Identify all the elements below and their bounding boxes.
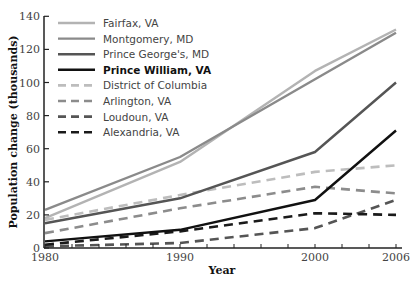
series-line-prince-george-s-md (45, 83, 396, 224)
y-tick-label: 100 (19, 77, 40, 90)
x-ticks: 1980199020002006 (31, 244, 410, 264)
y-tick-label: 20 (26, 209, 40, 222)
legend-label: Prince William, VA (103, 64, 212, 76)
legend-label: Loudoun, VA (103, 111, 169, 123)
x-tick-label: 2006 (382, 251, 410, 264)
x-tick-label: 1990 (166, 251, 194, 264)
plot-lines (45, 30, 396, 247)
y-tick-label: 80 (26, 110, 40, 123)
legend-label: Prince George's, MD (103, 48, 209, 60)
population-change-chart: 020406080100120140 1980199020002006 Popu… (0, 0, 414, 287)
x-axis-title: Year (208, 264, 236, 277)
legend-label: Montgomery, MD (103, 33, 193, 45)
legend-label: Fairfax, VA (103, 17, 159, 29)
legend-label: Arlington, VA (103, 95, 172, 107)
legend-label: Alexandria, VA (103, 126, 180, 138)
y-axis-title: Population change (thousands) (7, 35, 20, 228)
x-tick-label: 1980 (31, 251, 59, 264)
series-line-district-of-columbia (45, 165, 396, 220)
series-line-prince-william-va (45, 131, 396, 242)
legend: Fairfax, VAMontgomery, MDPrince George's… (58, 17, 212, 138)
y-tick-label: 60 (26, 143, 40, 156)
y-tick-label: 120 (19, 43, 40, 56)
legend-label: District of Columbia (103, 79, 207, 91)
y-tick-label: 40 (26, 176, 40, 189)
y-tick-label: 140 (19, 10, 40, 23)
x-tick-label: 2000 (301, 251, 329, 264)
